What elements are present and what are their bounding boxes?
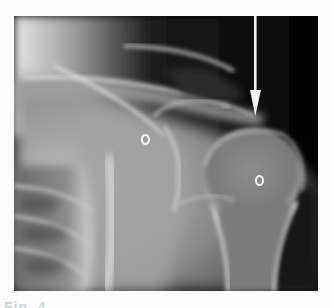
- marker-o-humeral-head: [255, 175, 264, 186]
- marker-o-glenoid: [141, 134, 150, 145]
- shoulder-radiograph: [14, 16, 318, 291]
- figure-caption-fragment: Fig. 4: [4, 300, 47, 308]
- xray-image: [14, 16, 318, 291]
